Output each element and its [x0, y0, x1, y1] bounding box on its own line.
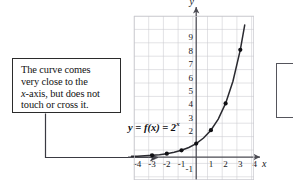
x-tick-3: 3 — [238, 159, 243, 169]
figure-container: The curve comesvery close to thex-axis, … — [0, 0, 293, 189]
data-point — [150, 153, 154, 157]
x-axis-label: x — [261, 158, 267, 169]
y-tick-8: 8 — [189, 46, 194, 56]
y-tick-9: 9 — [189, 32, 194, 42]
axes — [128, 7, 260, 180]
annotation-callout-box: The curve comesvery close to thex-axis, … — [12, 58, 121, 113]
y-axis-label: y — [189, 0, 195, 7]
x-tick-neg3: -3 — [148, 159, 156, 169]
annotation-callout-text: The curve comesvery close to thex-axis, … — [21, 64, 114, 111]
adjacent-cropped-box — [276, 63, 293, 118]
data-point — [238, 48, 242, 52]
y-tick-5: 5 — [189, 86, 194, 96]
y-tick-labels: 9 8 7 6 5 4 3 2 -1 — [186, 32, 194, 173]
data-point — [209, 128, 213, 132]
data-point — [194, 142, 198, 146]
y-tick-7: 7 — [189, 59, 194, 69]
function-exponent: x — [176, 120, 180, 128]
plot-area: y x 9 8 7 6 5 4 3 2 -1 -4 -3 -2 -1 1 — [134, 16, 254, 180]
y-tick-3: 3 — [189, 113, 194, 123]
x-tick-neg1: -1 — [178, 159, 186, 169]
y-tick-4: 4 — [189, 99, 194, 109]
grid-horizontal — [134, 16, 254, 177]
coordinate-plane: y x 9 8 7 6 5 4 3 2 -1 -4 -3 -2 -1 1 — [134, 16, 254, 180]
data-point — [165, 152, 169, 156]
function-equation-label: y = f(x) = 2x — [128, 120, 180, 133]
x-tick-1: 1 — [209, 159, 214, 169]
function-equation-text: y = f(x) = 2 — [128, 122, 176, 133]
y-tick-6: 6 — [189, 73, 194, 83]
x-tick-neg2: -2 — [163, 159, 171, 169]
data-point — [224, 101, 228, 105]
x-tick-neg4: -4 — [134, 159, 142, 169]
x-tick-2: 2 — [223, 159, 228, 169]
y-tick-neg1: -1 — [186, 164, 194, 174]
data-point — [179, 148, 183, 152]
y-tick-2: 2 — [189, 126, 194, 136]
